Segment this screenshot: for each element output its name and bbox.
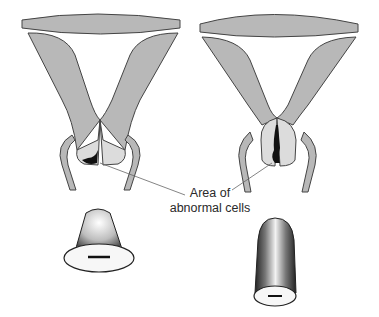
annotation-line-1: Area of [160, 186, 260, 201]
right-uterine-wall-left [202, 37, 277, 125]
left-uterine-wall-left [28, 33, 100, 150]
short-cone-specimen [64, 209, 134, 272]
left-uterine-wall-right [100, 33, 178, 150]
right-uterine-wall-right [277, 37, 356, 125]
right-vaginal-wall-right [301, 132, 316, 192]
right-fundus [200, 15, 358, 38]
annotation-label: Area of abnormal cells [160, 186, 260, 216]
long-cone-specimen [254, 218, 296, 306]
annotation-line-2: abnormal cells [160, 201, 260, 216]
left-vaginal-wall-left [60, 135, 76, 190]
right-vaginal-wall-left [239, 132, 253, 192]
diagram-canvas [0, 0, 379, 317]
right-uterus-diagram [200, 15, 358, 193]
left-fundus [22, 14, 180, 34]
